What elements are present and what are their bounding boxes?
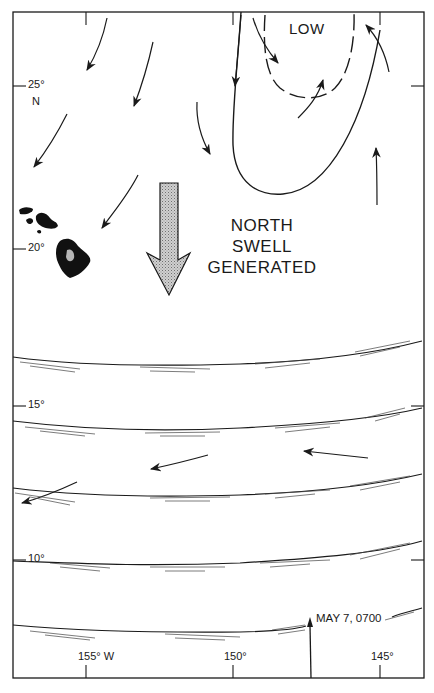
wind-arrow bbox=[134, 42, 153, 106]
low-pressure-isobars bbox=[233, 12, 380, 194]
swell-front bbox=[13, 625, 306, 632]
graticule-ticks bbox=[13, 12, 424, 678]
swell-label-line3: GENERATED bbox=[207, 257, 317, 278]
lon-label-145: 145° bbox=[371, 650, 394, 662]
wind-arrow bbox=[151, 455, 208, 469]
island-lanai bbox=[37, 230, 41, 233]
swell-hatching bbox=[15, 341, 414, 640]
island-kauai bbox=[19, 207, 33, 214]
swell-label: NORTH SWELL GENERATED bbox=[207, 215, 317, 278]
wind-arrow bbox=[34, 114, 67, 167]
wind-arrow bbox=[366, 25, 389, 72]
swell-map: 25° N 20° 15° 10° 155° W 150° 145° LOW N… bbox=[0, 0, 434, 693]
wind-arrow bbox=[102, 175, 138, 228]
wind-arrow bbox=[304, 451, 368, 458]
lat-label-north: N bbox=[32, 95, 40, 107]
swell-front bbox=[392, 608, 422, 617]
wind-arrow bbox=[22, 482, 77, 503]
swell-arrow bbox=[147, 183, 190, 295]
lat-label-20: 20° bbox=[28, 241, 45, 253]
island-molokai-maui bbox=[36, 213, 58, 229]
timestamp-arrow bbox=[307, 617, 313, 678]
wind-arrow bbox=[235, 15, 241, 86]
lon-label-150: 150° bbox=[224, 650, 247, 662]
wind-arrow bbox=[87, 18, 107, 70]
map-frame bbox=[13, 12, 424, 678]
swell-label-line1: NORTH bbox=[207, 215, 317, 236]
outer-isobar bbox=[233, 12, 380, 194]
swell-label-line2: SWELL bbox=[207, 236, 317, 257]
wind-arrow bbox=[376, 148, 377, 205]
swell-front bbox=[13, 341, 422, 365]
wind-arrow bbox=[253, 18, 278, 63]
lat-label-15: 15° bbox=[28, 398, 45, 410]
lat-label-10: 10° bbox=[28, 552, 45, 564]
swell-fronts bbox=[13, 341, 422, 632]
lat-label-25: 25° bbox=[28, 78, 45, 90]
island-oahu bbox=[26, 218, 33, 224]
swell-front bbox=[13, 474, 422, 496]
low-pressure-label: LOW bbox=[289, 18, 325, 39]
timestamp-label: MAY 7, 0700 bbox=[316, 612, 381, 624]
wind-arrow bbox=[298, 80, 323, 118]
swell-front bbox=[13, 408, 422, 430]
wind-arrow bbox=[197, 102, 210, 154]
lon-label-155w: 155° W bbox=[78, 650, 114, 662]
map-canvas bbox=[0, 0, 434, 693]
